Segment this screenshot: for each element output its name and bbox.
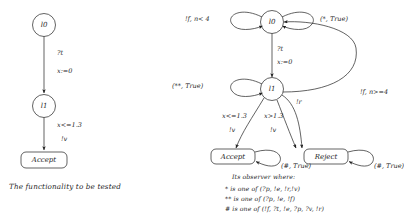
right-edge-l0-l1-guard: ?t [277, 46, 283, 53]
right-edge-l0-l1-action: x:=0 [277, 59, 292, 66]
left-node-l1-label: l1 [41, 103, 48, 110]
right-diagram-graphics [211, 11, 373, 167]
legend-line-star: * is one of (?p, !e, !r,!v) [225, 186, 300, 192]
right-node-reject-label: Reject [315, 153, 337, 160]
right-edge-l1-reject-guard: x>1.3 [264, 113, 283, 120]
right-loop-l1-left [231, 79, 263, 96]
right-edge-l1-reject-r-label: !r [296, 99, 302, 106]
right-node-l1-label: l1 [269, 86, 276, 93]
right-loop-l1-left-label: (**, True) [172, 83, 203, 90]
right-loop-reject-label: (#, True) [374, 163, 404, 170]
right-edge-l1-reject-action: !v [270, 127, 276, 134]
right-loop-l0-right-label: (*, True) [320, 16, 348, 23]
left-edge-l1-accept-guard: x<=1.3 [57, 122, 82, 129]
right-loop-accept-label: (#, True) [281, 163, 311, 170]
right-loop-accept [255, 150, 280, 166]
right-edge-l1-l0-long [283, 22, 356, 92]
left-node-accept-label: Accept [32, 157, 56, 164]
right-edge-l1-accept [236, 98, 264, 148]
left-edge-l0-l1-action: x:=0 [57, 68, 72, 75]
right-loop-l0-right [282, 12, 313, 29]
right-edge-l1-accept-guard: x<=1.3 [222, 113, 247, 120]
left-diagram-graphics [21, 14, 67, 169]
right-edge-l1-accept-action: !v [229, 127, 235, 134]
left-edge-l1-accept-action: !v [61, 136, 67, 143]
right-loop-l0-left [231, 12, 263, 29]
right-loop-l0-left-label: !f, n< 4 [185, 16, 210, 23]
right-edge-l1-l0-long-label: !f, n>=4 [360, 89, 388, 96]
left-node-l0-label: l0 [41, 22, 48, 29]
right-node-l0-label: l0 [269, 19, 276, 26]
right-diagram-caption: Its observer where: [232, 174, 295, 180]
legend-line-hash: # is one of (!f, ?t, !e, ?p, ?v, !r) [225, 206, 324, 212]
right-loop-reject [348, 150, 373, 166]
right-node-accept-label: Accept [221, 153, 245, 160]
left-diagram-caption: The functionality to be tested [9, 183, 121, 190]
left-edge-l0-l1-guard: ?t [57, 50, 63, 57]
legend-line-doublestar: ** is one of (?p, !e, !f) [225, 196, 295, 202]
